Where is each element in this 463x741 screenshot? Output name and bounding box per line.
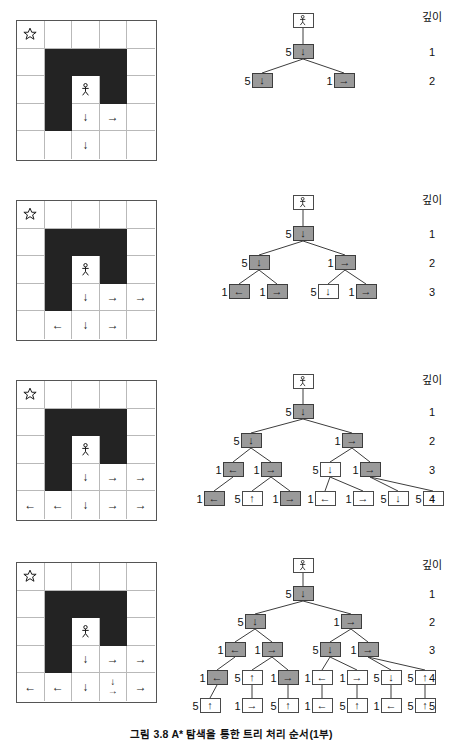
tree-node-cost-label: 5 [282, 229, 292, 240]
tree-node-arrow-icon: → [266, 464, 277, 475]
tree-node-expanded: → [360, 462, 381, 477]
tree-node-arrow-icon: → [283, 672, 294, 683]
tree-node-cost-label: 1 [330, 617, 340, 628]
tree-node-cost-label: 5 [241, 76, 251, 87]
tree-depth-number: 4 [420, 494, 444, 505]
search-tree: ↓5↓5→1←1→1↓5→1123 [0, 186, 463, 366]
tree-node-cost-label: 5 [189, 701, 199, 712]
tree-node-arrow-icon: → [361, 286, 372, 297]
depth-column-header: 깊이 [416, 195, 448, 207]
tree-depth-number: 1 [420, 47, 444, 58]
tree-node-cost-label: 5 [231, 673, 241, 684]
tree-depth-number: 2 [420, 436, 444, 447]
tree-node-arrow-icon: → [339, 75, 350, 86]
tree-node-expanded: ← [204, 491, 225, 506]
tree-node-arrow-icon: ← [230, 644, 241, 655]
tree-node-cost-label: 1 [251, 645, 261, 656]
tree-node-frontier: ↓ [318, 284, 339, 299]
tree-node-cost-label: 5 [307, 287, 317, 298]
tree-node-arrow-icon: ↓ [325, 286, 331, 297]
tree-node-cost-label: 1 [301, 701, 311, 712]
tree-node-arrow-icon: → [346, 616, 357, 627]
tree-node-root-person-icon [293, 13, 314, 28]
search-tree: ↓5↓5→1←1→1↓5→1←1↑5→1←1→1↓5↑51234 [0, 366, 463, 546]
search-tree: ↓5↓5→112 [0, 4, 463, 184]
tree-node-arrow-icon: ↓ [256, 257, 262, 268]
tree-node-arrow-icon: ↑ [207, 700, 213, 711]
tree-node-frontier: ↑ [347, 698, 368, 713]
tree-node-cost-label: 5 [231, 494, 241, 505]
tree-node-expanded: ↓ [293, 44, 314, 59]
tree-node-arrow-icon: ↓ [300, 46, 306, 57]
tree-depth-number: 1 [420, 589, 444, 600]
tree-node-expanded: → [342, 433, 363, 448]
tree-depth-number: 2 [420, 617, 444, 628]
tree-node-arrow-icon: → [365, 464, 376, 475]
tree-node-cost-label: 1 [349, 465, 359, 476]
tree-node-cost-label: 1 [218, 287, 228, 298]
tree-edges [0, 186, 463, 366]
tree-node-cost-label: 1 [212, 465, 222, 476]
tree-node-expanded: ↓ [249, 255, 270, 270]
tree-node-expanded: → [334, 73, 355, 88]
tree-node-arrow-icon: ↑ [249, 493, 255, 504]
tree-node-expanded: → [262, 642, 283, 657]
tree-node-expanded: ← [223, 462, 244, 477]
tree-depth-number: 1 [420, 407, 444, 418]
tree-depth-number: 5 [420, 701, 444, 712]
tree-depth-number: 3 [420, 287, 444, 298]
depth-column-header: 깊이 [416, 560, 448, 572]
tree-node-cost-label: 5 [267, 701, 277, 712]
tree-edges [0, 4, 463, 184]
tree-node-cost-label: 1 [250, 465, 260, 476]
tree-edges [0, 366, 463, 546]
tree-node-arrow-icon: ← [317, 672, 328, 683]
tree-node-arrow-icon: ↓ [327, 464, 333, 475]
tree-node-cost-label: 5 [282, 47, 292, 58]
tree-node-arrow-icon: ← [320, 493, 331, 504]
tree-node-arrow-icon: ↑ [249, 672, 255, 683]
tree-node-cost-label: 5 [230, 436, 240, 447]
depth-column-header: 깊이 [416, 375, 448, 387]
tree-node-frontier: ↑ [242, 670, 263, 685]
tree-node-arrow-icon: → [363, 644, 374, 655]
tree-node-frontier: → [347, 670, 368, 685]
tree-depth-number: 2 [420, 76, 444, 87]
tree-node-cost-label: 1 [196, 673, 206, 684]
tree-node-arrow-icon: ↓ [388, 672, 394, 683]
tree-node-arrow-icon: ← [234, 286, 245, 297]
tree-node-expanded: → [341, 614, 362, 629]
tree-node-cost-label: 5 [309, 645, 319, 656]
tree-node-cost-label: 5 [370, 673, 380, 684]
tree-node-cost-label: 1 [331, 436, 341, 447]
tree-node-cost-label: 5 [309, 465, 319, 476]
tree-node-cost-label: 5 [238, 258, 248, 269]
tree-node-expanded: ← [225, 642, 246, 657]
tree-node-expanded: → [356, 284, 377, 299]
tree-node-frontier: ↓ [388, 491, 409, 506]
tree-node-cost-label: 1 [193, 494, 203, 505]
tree-node-frontier: ↑ [242, 491, 263, 506]
tree-node-frontier: ← [315, 491, 336, 506]
search-tree: ↓5↓5→1←1→1↓5→1←1↑5→1←1→1↓5↑5↑5→1↑5←1↑5←1… [0, 552, 463, 732]
tree-depth-number: 3 [420, 465, 444, 476]
tree-node-expanded: → [278, 670, 299, 685]
tree-node-cost-label: 1 [267, 673, 277, 684]
tree-node-frontier: → [353, 491, 374, 506]
tree-node-arrow-icon: ↑ [354, 700, 360, 711]
tree-node-cost-label: 1 [324, 258, 334, 269]
tree-node-frontier: ← [312, 698, 333, 713]
tree-node-expanded: ↓ [293, 586, 314, 601]
tree-node-arrow-icon: ← [209, 493, 220, 504]
tree-node-expanded: ↓ [241, 433, 262, 448]
tree-depth-number: 4 [420, 673, 444, 684]
tree-node-cost-label: 1 [256, 287, 266, 298]
tree-node-frontier: → [242, 698, 263, 713]
tree-node-arrow-icon: ← [228, 464, 239, 475]
tree-node-arrow-icon: ↓ [395, 493, 401, 504]
tree-node-cost-label: 5 [404, 701, 414, 712]
tree-node-frontier: ↑ [200, 698, 221, 713]
tree-node-arrow-icon: ← [212, 672, 223, 683]
tree-node-expanded: → [261, 462, 282, 477]
tree-node-root-person-icon [293, 195, 314, 210]
